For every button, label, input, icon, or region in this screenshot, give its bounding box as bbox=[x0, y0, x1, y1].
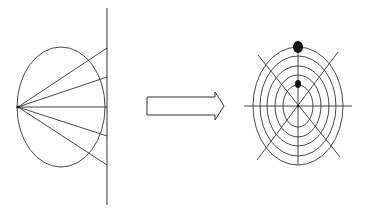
ellipsoid-projection-panel bbox=[17, 8, 108, 205]
diagram-canvas bbox=[0, 0, 368, 216]
outer-point bbox=[293, 41, 303, 53]
inner-point bbox=[295, 80, 301, 88]
polar-grid-target-panel bbox=[244, 41, 352, 165]
center-point bbox=[297, 105, 299, 107]
projection-ray-4 bbox=[18, 107, 107, 136]
projection-ray-5 bbox=[18, 107, 107, 165]
projection-ray-1 bbox=[18, 48, 107, 107]
projection-ray-2 bbox=[18, 77, 107, 107]
transform-arrow-icon bbox=[147, 92, 224, 120]
apex-point bbox=[17, 106, 20, 109]
block-arrow-shape bbox=[147, 92, 224, 120]
